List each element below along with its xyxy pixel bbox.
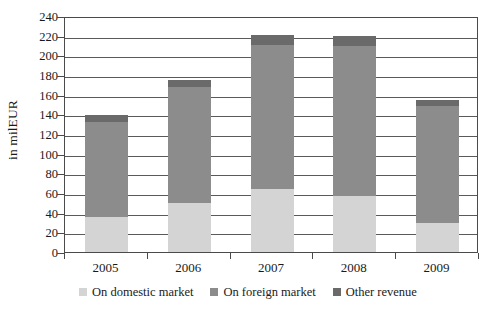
y-axis-tick-label: 20 — [24, 227, 58, 240]
bar-segment-domestic[interactable] — [416, 223, 459, 253]
bars-layer — [65, 18, 477, 252]
y-axis-tick-label: 160 — [24, 89, 58, 102]
y-axis-tick-label: 0 — [24, 247, 58, 260]
bar-segment-domestic[interactable] — [251, 189, 294, 252]
y-axis-tick-label: 40 — [24, 207, 58, 220]
bar-segment-foreign[interactable] — [168, 87, 211, 203]
bar-segment-foreign[interactable] — [416, 106, 459, 222]
y-axis-title-text: in milEUR — [5, 100, 21, 160]
y-axis-tick-label: 220 — [24, 30, 58, 43]
y-axis-tick-mark — [57, 174, 64, 175]
x-axis-tick-label: 2005 — [92, 260, 118, 276]
bar-segment-other[interactable] — [85, 115, 128, 122]
legend-label: Other revenue — [346, 286, 417, 299]
legend-swatch-icon — [333, 288, 341, 296]
y-axis-tick-mark — [57, 115, 64, 116]
y-axis-tick-mark — [57, 56, 64, 57]
legend-swatch-icon — [210, 288, 218, 296]
y-axis-tick-mark — [57, 17, 64, 18]
y-axis-tick-mark — [57, 96, 64, 97]
legend-item[interactable]: Other revenue — [333, 286, 417, 299]
bar-segment-foreign[interactable] — [85, 122, 128, 216]
y-axis-tick-label: 60 — [24, 188, 58, 201]
x-axis-tick-mark — [312, 253, 313, 259]
x-axis-tick-mark — [230, 253, 231, 259]
x-axis-tick-label: 2009 — [424, 260, 450, 276]
x-axis-tick-label: 2006 — [175, 260, 201, 276]
y-axis-tick-label: 120 — [24, 129, 58, 142]
bar-segment-other[interactable] — [416, 100, 459, 107]
bar-group[interactable] — [85, 16, 128, 252]
bar-segment-domestic[interactable] — [168, 203, 211, 252]
y-axis-title: in milEUR — [2, 60, 24, 200]
plot-area — [64, 17, 478, 253]
x-axis-tick-mark — [478, 253, 479, 259]
y-axis-tick-mark — [57, 76, 64, 77]
bar-segment-foreign[interactable] — [333, 46, 376, 196]
bar-segment-domestic[interactable] — [333, 196, 376, 252]
x-axis-tick-labels: 20052006200720082009 — [64, 260, 478, 280]
y-axis-tick-label: 240 — [24, 11, 58, 24]
x-axis-tick-mark — [147, 253, 148, 259]
bar-segment-domestic[interactable] — [85, 217, 128, 252]
x-axis-tick-label: 2008 — [341, 260, 367, 276]
bar-group[interactable] — [168, 16, 211, 252]
y-axis-tick-mark — [57, 37, 64, 38]
bar-segment-other[interactable] — [168, 80, 211, 87]
y-axis-tick-label: 100 — [24, 148, 58, 161]
x-axis-tick-mark — [64, 253, 65, 259]
legend-item[interactable]: On foreign market — [210, 286, 315, 299]
bar-group[interactable] — [416, 16, 459, 252]
chart-legend: On domestic marketOn foreign marketOther… — [0, 286, 496, 299]
x-axis-tick-label: 2007 — [258, 260, 284, 276]
y-axis-tick-mark — [57, 194, 64, 195]
legend-label: On domestic market — [92, 286, 193, 299]
legend-swatch-icon — [79, 288, 87, 296]
y-axis-tick-mark — [57, 233, 64, 234]
y-axis-tick-label: 200 — [24, 50, 58, 63]
stacked-bar-chart: in milEUR 020406080100120140160180200220… — [0, 0, 496, 312]
x-axis-tick-mark — [395, 253, 396, 259]
y-axis-tick-label: 180 — [24, 70, 58, 83]
bar-segment-other[interactable] — [251, 35, 294, 45]
bar-segment-foreign[interactable] — [251, 45, 294, 190]
y-axis-tick-labels: 020406080100120140160180200220240 — [24, 0, 58, 312]
bar-group[interactable] — [251, 16, 294, 252]
y-axis-tick-mark — [57, 253, 64, 254]
y-axis-tick-mark — [57, 135, 64, 136]
y-axis-tick-label: 140 — [24, 109, 58, 122]
bar-segment-other[interactable] — [333, 36, 376, 46]
x-axis-tick-marks — [64, 253, 478, 260]
bar-group[interactable] — [333, 16, 376, 252]
y-axis-tick-mark — [57, 155, 64, 156]
legend-label: On foreign market — [223, 286, 315, 299]
y-axis-tick-label: 80 — [24, 168, 58, 181]
legend-item[interactable]: On domestic market — [79, 286, 193, 299]
y-axis-tick-mark — [57, 214, 64, 215]
